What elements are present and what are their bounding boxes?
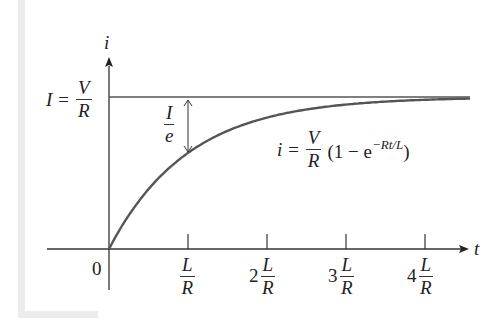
asymptote-num: V: [76, 78, 92, 100]
y-axis-arrow-icon: [105, 57, 113, 67]
equation-fraction: V R: [306, 128, 322, 171]
tick-num: L: [180, 255, 195, 277]
equation-exponent: −Rt/L: [372, 137, 403, 152]
gap-den: e: [165, 125, 173, 146]
equation-label: i = V R (1 − e−Rt/L): [277, 128, 409, 171]
y-axis-label: i: [104, 33, 109, 52]
equation-den: R: [308, 150, 320, 171]
gap-fraction: I e: [164, 103, 174, 146]
tick-den: R: [262, 277, 274, 298]
x-tick-label-1: L R: [180, 255, 195, 298]
tick-num: L: [419, 255, 434, 277]
i-over-e-arrow-icon: [184, 100, 192, 152]
tick-den: R: [420, 277, 432, 298]
asymptote-fraction: V R: [76, 78, 92, 121]
tick-den: R: [341, 277, 353, 298]
tick-den: R: [181, 277, 193, 298]
asymptote-den: R: [78, 100, 90, 121]
gap-num: I: [164, 103, 174, 125]
equation-lhs: i =: [277, 140, 300, 159]
gap-annotation-label: I e: [164, 103, 174, 146]
equation-body: (1 − e−Rt/L): [327, 138, 409, 161]
tick-coef: 2: [249, 265, 259, 287]
origin-label: 0: [92, 259, 102, 278]
asymptote-label: I = V R: [46, 78, 92, 121]
x-tick-label-3: 3 L R: [328, 255, 354, 298]
x-tick-label-2: 2 L R: [249, 255, 275, 298]
x-axis-label: t: [474, 239, 479, 258]
tick-num: L: [340, 255, 355, 277]
tick-coef: 3: [328, 265, 338, 287]
equation-num: V: [306, 128, 322, 150]
x-tick-label-4: 4 L R: [407, 255, 433, 298]
equation-close: ): [403, 141, 409, 162]
tick-coef: 4: [407, 265, 417, 287]
equation-open: (1 − e: [327, 141, 371, 162]
x-ticks: [188, 234, 425, 249]
asymptote-lhs: I =: [46, 90, 70, 109]
tick-num: L: [261, 255, 276, 277]
